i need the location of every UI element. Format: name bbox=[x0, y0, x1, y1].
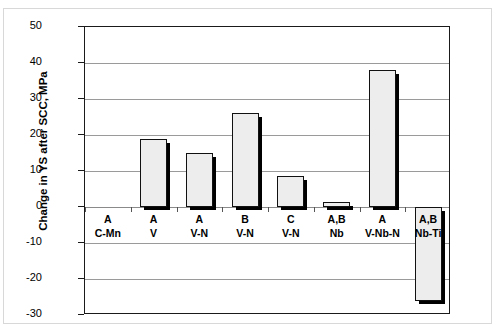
category-grade-3: B bbox=[222, 213, 268, 227]
category-label-3: BV-N bbox=[222, 213, 268, 240]
category-label-0: AC-Mn bbox=[85, 213, 131, 240]
category-grade-4: C bbox=[268, 213, 314, 227]
category-label-6: AV-Nb-N bbox=[360, 213, 406, 240]
category-composition-4: V-N bbox=[268, 227, 314, 241]
bar-chart-figure: Change in YS after SCC, MPa 50403020100-… bbox=[0, 0, 500, 331]
category-grade-0: A bbox=[85, 213, 131, 227]
bar-5 bbox=[323, 202, 350, 207]
category-grade-5: A,B bbox=[314, 213, 360, 227]
y-tick-label-0: 0 bbox=[2, 199, 42, 211]
gridline-40 bbox=[85, 63, 449, 64]
gridline--20 bbox=[85, 279, 449, 280]
y-tick-label--10: -10 bbox=[2, 235, 42, 247]
category-grade-2: A bbox=[177, 213, 223, 227]
bar-3 bbox=[232, 113, 259, 207]
category-grade-1: A bbox=[131, 213, 177, 227]
y-tick-label--30: -30 bbox=[2, 307, 42, 319]
category-composition-7: Nb-Ti bbox=[405, 227, 451, 241]
plot-area: AC-MnAVAV-NBV-NCV-NA,BNbAV-Nb-NA,BNb-Ti bbox=[84, 26, 450, 314]
x-tick-7 bbox=[405, 207, 406, 212]
bar-2 bbox=[186, 153, 213, 207]
y-tick-label-20: 20 bbox=[2, 127, 42, 139]
y-tick-label-30: 30 bbox=[2, 91, 42, 103]
category-composition-1: V bbox=[131, 227, 177, 241]
category-label-1: AV bbox=[131, 213, 177, 240]
y-tick-label-40: 40 bbox=[2, 55, 42, 67]
gridline--10 bbox=[85, 243, 449, 244]
category-label-5: A,BNb bbox=[314, 213, 360, 240]
gridline-0 bbox=[85, 207, 449, 208]
category-label-2: AV-N bbox=[177, 213, 223, 240]
x-tick-1 bbox=[131, 207, 132, 212]
bar-4 bbox=[277, 176, 304, 207]
category-label-4: CV-N bbox=[268, 213, 314, 240]
x-tick-0 bbox=[85, 207, 86, 212]
y-tick-label-50: 50 bbox=[2, 19, 42, 31]
category-composition-3: V-N bbox=[222, 227, 268, 241]
category-composition-2: V-N bbox=[177, 227, 223, 241]
y-tick-label-10: 10 bbox=[2, 163, 42, 175]
category-composition-5: Nb bbox=[314, 227, 360, 241]
category-grade-7: A,B bbox=[405, 213, 451, 227]
category-grade-6: A bbox=[360, 213, 406, 227]
x-tick-3 bbox=[222, 207, 223, 212]
category-composition-6: V-Nb-N bbox=[360, 227, 406, 241]
x-tick-5 bbox=[314, 207, 315, 212]
category-composition-0: C-Mn bbox=[85, 227, 131, 241]
category-label-7: A,BNb-Ti bbox=[405, 213, 451, 240]
y-tick-label--20: -20 bbox=[2, 271, 42, 283]
bar-6 bbox=[369, 70, 396, 207]
x-tick-4 bbox=[268, 207, 269, 212]
bar-1 bbox=[140, 139, 167, 207]
y-tick-mark--30 bbox=[78, 314, 84, 315]
x-tick-2 bbox=[177, 207, 178, 212]
x-tick-6 bbox=[360, 207, 361, 212]
